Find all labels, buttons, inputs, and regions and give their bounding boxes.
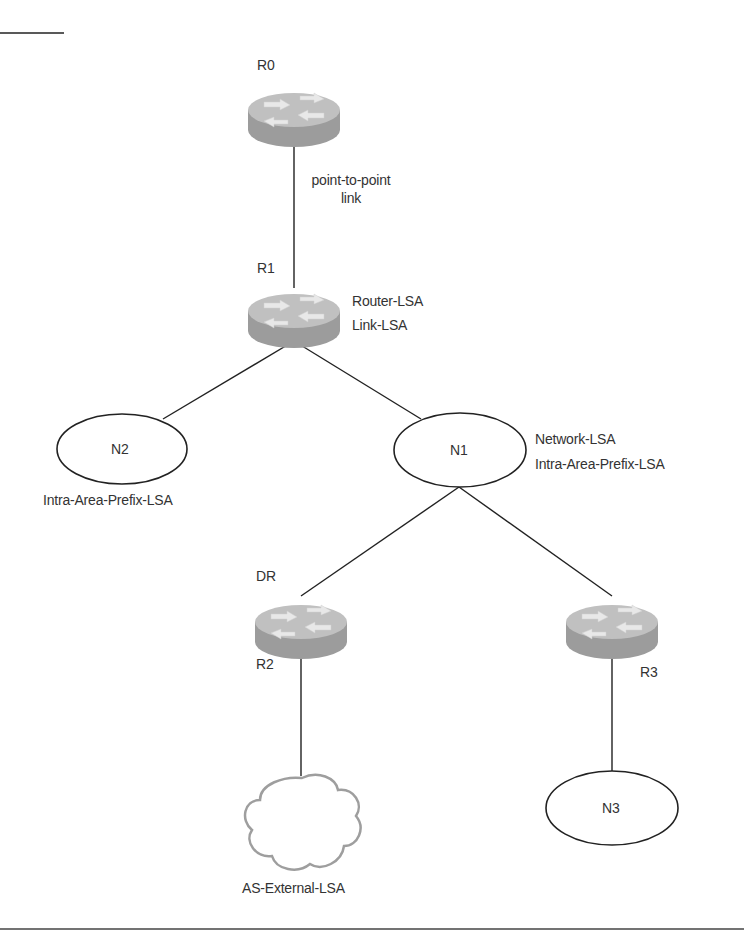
link-n1-r3 xyxy=(459,487,612,596)
n1-intra-area-prefix-lsa-label: Intra-Area-Prefix-LSA xyxy=(535,456,665,472)
router-r3-label: R3 xyxy=(640,664,658,680)
network-n1-label: N1 xyxy=(450,442,468,458)
router-r2-icon[interactable] xyxy=(255,605,347,659)
link-r1-n2 xyxy=(163,341,294,419)
router-r3-icon[interactable] xyxy=(566,605,658,659)
network-n2-label: N2 xyxy=(111,441,129,457)
router-r2-label: R2 xyxy=(256,656,274,672)
link-n1-r2 xyxy=(301,487,459,596)
n1-network-lsa-label: Network-LSA xyxy=(535,431,615,447)
network-n3-label: N3 xyxy=(602,800,620,816)
as-external-lsa-label: AS-External-LSA xyxy=(242,880,345,896)
link-r1-n1 xyxy=(294,341,421,419)
router-r0-icon[interactable] xyxy=(248,93,340,147)
router-r1-label: R1 xyxy=(257,260,275,276)
router-r1-icon[interactable] xyxy=(248,294,340,348)
external-cloud-icon[interactable] xyxy=(245,775,360,870)
router-r0-label: R0 xyxy=(257,57,275,73)
router-r2-dr-label: DR xyxy=(256,568,276,584)
link-label-line2: link xyxy=(301,190,401,206)
n2-intra-area-prefix-lsa-label: Intra-Area-Prefix-LSA xyxy=(43,492,173,508)
link-label-line1: point-to-point xyxy=(301,172,401,188)
r1-link-lsa-label: Link-LSA xyxy=(352,317,407,333)
r1-router-lsa-label: Router-LSA xyxy=(352,293,423,309)
